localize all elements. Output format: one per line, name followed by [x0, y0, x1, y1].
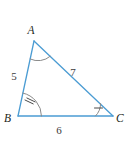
angle-arc-c [96, 104, 101, 116]
side-label-ab: 5 [11, 70, 17, 82]
angle-arc-b [23, 93, 42, 116]
side-label-ac: 7 [70, 66, 76, 78]
vertex-label-c: C [116, 112, 124, 124]
triangle-diagram-canvas: A B C 5 7 6 [0, 0, 129, 143]
triangle-edge-ab [18, 41, 34, 116]
triangle-edge-ac [34, 41, 113, 116]
triangle-figure: A B C 5 7 6 [0, 0, 129, 143]
side-label-bc: 6 [56, 124, 62, 136]
angle-arc-a [30, 56, 50, 60]
vertex-label-b: B [4, 112, 11, 124]
vertex-label-a: A [26, 24, 35, 36]
